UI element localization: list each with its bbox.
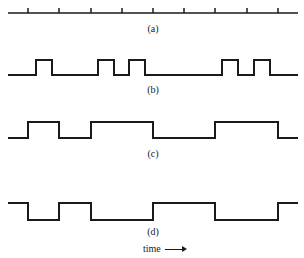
- waveform-d: [8, 203, 298, 220]
- label-b: (b): [147, 84, 159, 95]
- timeline-a: [8, 8, 298, 13]
- label-a: (a): [147, 23, 158, 34]
- waveform-c: [8, 122, 298, 138]
- waveform-b: [8, 60, 298, 75]
- time-label: time: [143, 243, 161, 254]
- arrow-right-icon: [165, 246, 187, 252]
- time-axis-label: time: [143, 243, 187, 254]
- label-c: (c): [147, 148, 158, 159]
- waveform-diagram: [0, 0, 304, 258]
- label-d: (d): [147, 226, 159, 237]
